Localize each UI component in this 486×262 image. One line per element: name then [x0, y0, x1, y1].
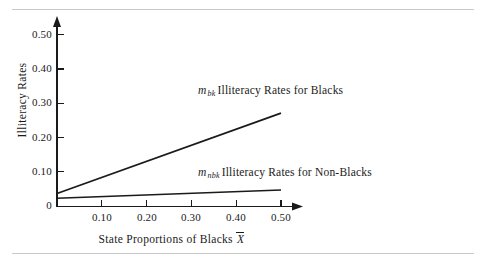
y-axis-arrow-icon — [53, 16, 61, 27]
y-tick-label-010: 0.10 — [18, 165, 52, 177]
x-tick-label-020: 0.20 — [127, 211, 167, 223]
series-line-non-blacks — [57, 190, 281, 198]
series-symbol-non-blacks: m — [198, 166, 207, 178]
y-tick-marks — [57, 35, 64, 172]
figure-container: 0.50 0.40 0.30 0.20 0.10 0 0.10 0.20 0.3… — [0, 0, 486, 262]
series-line-blacks — [57, 113, 281, 193]
series-subscript-blacks: bk — [207, 89, 218, 98]
x-tick-label-010: 0.10 — [82, 211, 122, 223]
series-annotation-blacks: mbkIlliteracy Rates for Blacks — [198, 84, 343, 96]
x-axis-title-text: State Proportions of Blacks — [99, 233, 233, 245]
x-tick-marks — [102, 200, 281, 207]
y-axis-origin-label: 0 — [18, 199, 52, 211]
x-tick-label-040: 0.40 — [216, 211, 256, 223]
series-label-non-blacks: Illiteracy Rates for Non-Blacks — [222, 166, 372, 178]
series-annotation-non-blacks: mnbkIlliteracy Rates for Non-Blacks — [198, 166, 372, 178]
x-axis-title-symbol: X — [236, 233, 245, 245]
series-symbol-blacks: m — [198, 84, 207, 96]
series-label-blacks: Illiteracy Rates for Blacks — [217, 84, 343, 96]
x-axis-arrow-icon — [292, 203, 303, 211]
x-axis-title: State Proportions of Blacks X — [57, 233, 287, 245]
y-tick-label-050: 0.50 — [18, 28, 52, 40]
y-axis-title: Illiteracy Rates — [16, 40, 28, 160]
series-subscript-non-blacks: nbk — [207, 171, 222, 180]
x-tick-label-050: 0.50 — [261, 211, 301, 223]
x-tick-label-030: 0.30 — [171, 211, 211, 223]
